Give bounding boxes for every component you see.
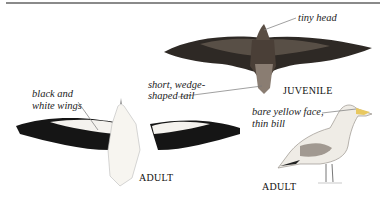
tail-annotation-line2: shaped tail (148, 90, 194, 101)
juvenile-caption: JUVENILE (283, 85, 333, 96)
face-annotation-line2: thin bill (252, 118, 285, 129)
adult-vulture-flight-illustration (16, 98, 240, 186)
wings-annotation-line1: black and (32, 88, 73, 99)
tail-annotation-line1: short, wedge- (148, 79, 205, 90)
wings-annotation-line2: white wings (32, 100, 82, 111)
adult-perched-caption: ADULT (262, 181, 296, 192)
tiny-head-annotation: tiny head (298, 12, 337, 23)
face-annotation-line1: bare yellow face, (252, 106, 324, 117)
adult-flight-caption: ADULT (139, 172, 173, 183)
